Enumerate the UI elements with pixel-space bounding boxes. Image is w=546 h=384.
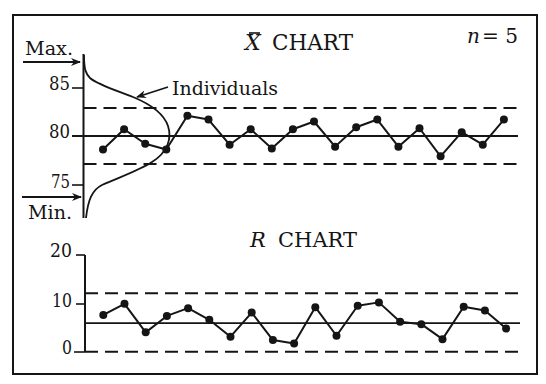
xbar-data-point [479, 141, 487, 149]
sample-size-value: = 5 [482, 24, 518, 48]
xbar-tick-label-75: 75 [51, 171, 70, 192]
xbar-control-lines [72, 108, 518, 164]
min-label: Min. [28, 201, 72, 223]
xbar-data-point [268, 145, 276, 153]
xbar-tick-label-80: 80 [49, 121, 70, 142]
max-label: Max. [25, 37, 73, 59]
r-tick-label-20: 20 [50, 240, 72, 261]
xbar-data-point [226, 141, 234, 149]
xbar-data-point [310, 117, 318, 125]
xbar-data-point [458, 128, 466, 136]
r-data-point [290, 339, 298, 347]
r-data-point [396, 318, 404, 326]
r-data-point [311, 303, 319, 311]
xbar-data-point [373, 116, 381, 124]
r-data-point [439, 335, 447, 343]
xbar-tick-label-85: 85 [49, 73, 70, 94]
sample-size-symbol: n [467, 24, 480, 48]
r-data-point [142, 328, 150, 336]
xbar-data-point [352, 123, 360, 131]
xbar-data-point [205, 116, 213, 124]
r-data-point [269, 336, 277, 344]
r-data-point [460, 303, 468, 311]
r-data-point [227, 333, 235, 341]
xbar-title-symbol: X [243, 30, 262, 55]
xbar-data-point [500, 116, 508, 124]
r-data-point [481, 307, 489, 315]
r-data-point [99, 311, 107, 319]
r-data-point [163, 312, 171, 320]
xbar-data-point [162, 146, 170, 154]
xbar-data-point [331, 143, 339, 151]
r-title: CHART [278, 228, 357, 252]
r-data-point [502, 324, 510, 332]
xbar-chart: X CHART n = 5 Max. Min. 85 80 75 Individ… [22, 24, 518, 223]
r-data-point [121, 300, 129, 308]
r-data-point [417, 320, 425, 328]
r-data-point [184, 304, 192, 312]
xbar-data-point [437, 152, 445, 160]
xbar-data-point [99, 146, 107, 154]
r-tick-label-10: 10 [52, 290, 72, 311]
r-tick-label-0: 0 [62, 337, 72, 358]
r-chart: R CHART 20 10 0 [50, 228, 520, 358]
xbar-data-point [394, 143, 402, 151]
xbar-data-point [183, 112, 191, 120]
r-data-point [354, 302, 362, 310]
xbar-data-point [416, 124, 424, 132]
xbar-title: CHART [272, 30, 353, 55]
xbar-data-point [120, 125, 128, 133]
r-data-point [248, 309, 256, 317]
xbar-data-point [247, 125, 255, 133]
r-data-point [375, 298, 383, 306]
r-data-point [205, 316, 213, 324]
xbar-data-point [289, 125, 297, 133]
individuals-arrow-icon [137, 87, 168, 97]
r-title-symbol: R [249, 228, 266, 252]
individuals-label: Individuals [172, 77, 278, 99]
xbar-data-point [141, 140, 149, 148]
r-data-point [333, 332, 341, 340]
r-control-lines [85, 293, 520, 352]
control-chart-figure: X CHART n = 5 Max. Min. 85 80 75 Individ… [0, 0, 546, 384]
